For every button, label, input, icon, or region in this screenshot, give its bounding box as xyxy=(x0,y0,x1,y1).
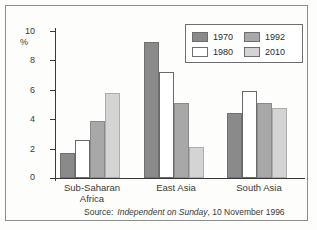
legend-swatch-2010-icon xyxy=(244,47,260,57)
legend-swatch-1992-icon xyxy=(244,32,260,42)
legend-row-2: 1980 2010 xyxy=(192,44,296,59)
y-tick-label-0: 0 xyxy=(5,173,35,182)
y-tick-label-10: 10 xyxy=(5,27,35,36)
bar-1992-sub-saharan-africa xyxy=(90,121,105,178)
legend-label-2010: 2010 xyxy=(265,47,285,57)
bar-1970-east-asia xyxy=(144,42,159,178)
legend-row-1: 1970 1992 xyxy=(192,29,296,44)
bar-1970-south-asia xyxy=(227,113,242,178)
y-axis-label: % xyxy=(20,37,28,47)
bar-1980-south-asia xyxy=(242,91,257,178)
legend-item-2010: 2010 xyxy=(244,47,296,57)
legend-item-1970: 1970 xyxy=(192,32,244,42)
y-tick-label-8: 8 xyxy=(5,56,35,65)
source-date: , 10 November 1996 xyxy=(208,207,285,217)
source-publication: Independent on Sunday xyxy=(117,207,207,217)
bar-2010-south-asia xyxy=(272,108,287,178)
source-label: Source: xyxy=(84,207,113,217)
legend-label-1970: 1970 xyxy=(213,32,233,42)
bar-1980-east-asia xyxy=(159,72,174,178)
y-tick-0 xyxy=(50,178,56,179)
chart-frame: % 10 8 6 4 2 0 xyxy=(5,5,308,221)
bar-1980-sub-saharan-africa xyxy=(75,140,90,178)
legend-label-1980: 1980 xyxy=(213,47,233,57)
bar-2010-east-asia xyxy=(189,147,204,178)
chart-figure: % 10 8 6 4 2 0 xyxy=(0,0,317,230)
legend-item-1992: 1992 xyxy=(244,32,296,42)
x-axis-line xyxy=(55,178,305,179)
source-note: Source:Independent on Sunday, 10 Novembe… xyxy=(84,207,285,217)
bar-group-sub-saharan-africa xyxy=(60,31,124,178)
legend-item-1980: 1980 xyxy=(192,47,244,57)
legend-label-1992: 1992 xyxy=(265,32,285,42)
y-tick-label-6: 6 xyxy=(5,86,35,95)
bar-1992-east-asia xyxy=(174,103,189,178)
x-tick-label-south-asia: South Asia xyxy=(204,182,314,193)
bar-1992-south-asia xyxy=(257,103,272,178)
x-tick-label-line-2: Africa xyxy=(37,193,147,204)
bar-2010-sub-saharan-africa xyxy=(105,93,120,178)
y-tick-label-2: 2 xyxy=(5,145,35,154)
legend-swatch-1970-icon xyxy=(192,32,208,42)
bar-1970-sub-saharan-africa xyxy=(60,153,75,178)
legend-swatch-1980-icon xyxy=(192,47,208,57)
y-tick-label-4: 4 xyxy=(5,115,35,124)
chart-legend: 1970 1992 1980 2010 xyxy=(185,24,303,63)
